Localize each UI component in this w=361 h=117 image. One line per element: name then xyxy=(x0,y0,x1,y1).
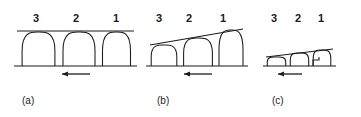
arch-number-label-1: 1 xyxy=(318,13,324,24)
direction-arrow xyxy=(62,71,90,76)
arch-1 xyxy=(219,30,243,66)
arch-3 xyxy=(267,57,285,66)
panel-caption-c: (c) xyxy=(272,96,284,106)
envelope-line xyxy=(266,49,333,57)
arrow-head xyxy=(184,71,190,76)
arch-3 xyxy=(22,32,55,66)
arch-2 xyxy=(184,38,213,66)
arch-number-label-3: 3 xyxy=(33,13,39,24)
arch-number-label-2: 2 xyxy=(295,13,301,24)
arch-number-label-3: 3 xyxy=(156,13,162,24)
arch-2 xyxy=(63,32,95,66)
arch-number-label-3: 3 xyxy=(271,13,277,24)
panel-b xyxy=(146,29,248,77)
panel-caption-b: (b) xyxy=(157,96,169,106)
three-panel-arch-diagram xyxy=(0,0,361,117)
envelope-line xyxy=(150,29,243,45)
arch-number-label-2: 2 xyxy=(186,13,192,24)
panel-c xyxy=(263,49,336,77)
arch-1 xyxy=(313,50,331,66)
arrow-head xyxy=(62,71,68,76)
arch-number-label-1: 1 xyxy=(220,13,226,24)
arch-number-label-2: 2 xyxy=(73,13,79,24)
arch-1 xyxy=(103,32,131,66)
panel-caption-a: (a) xyxy=(22,96,34,106)
arch-number-label-1: 1 xyxy=(113,13,119,24)
direction-arrow xyxy=(278,71,302,76)
direction-arrow xyxy=(184,71,212,76)
arch-3 xyxy=(151,45,177,66)
notch-step xyxy=(313,57,319,66)
figure-root: 321(a)321(b)321(c) xyxy=(0,0,361,117)
panel-a xyxy=(14,31,137,77)
arch-2 xyxy=(290,53,308,66)
arrow-head xyxy=(278,71,284,76)
